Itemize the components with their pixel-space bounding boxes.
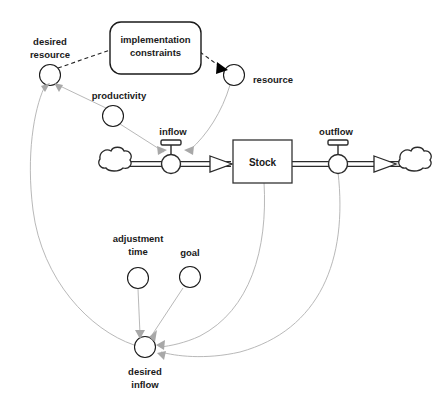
arrowhead-gray: [184, 146, 194, 155]
desired-resource-label-line1: desired: [33, 36, 67, 47]
desired-inflow-label-line1: desired: [128, 366, 162, 377]
stock-node[interactable]: Stock: [233, 140, 292, 183]
link-outflow-to-desired-inflow[interactable]: [161, 172, 340, 357]
cloud-icon: [99, 147, 131, 171]
aux-circle: [40, 65, 61, 86]
desired-resource-node[interactable]: desired resource: [30, 36, 70, 86]
sink-cloud[interactable]: [399, 147, 431, 171]
constraints-label-line2: constraints: [130, 47, 181, 58]
valve-body: [162, 155, 181, 174]
inflow-label: inflow: [159, 126, 187, 137]
implementation-constraints-node[interactable]: implementation constraints: [110, 22, 201, 74]
goal-node[interactable]: goal: [180, 247, 201, 288]
valve-cap: [328, 140, 348, 145]
adjustment-time-node[interactable]: adjustment time: [113, 233, 165, 289]
valve-cap: [161, 140, 181, 145]
link-desired-inflow-to-desired-resource[interactable]: [30, 88, 134, 345]
valve-body: [329, 155, 348, 174]
productivity-node[interactable]: productivity: [92, 90, 147, 127]
cloud-icon: [399, 147, 431, 171]
arrowhead-gray: [157, 351, 166, 360]
aux-circle: [103, 106, 124, 127]
inflow-direction-arrow: [210, 156, 232, 172]
system-dynamics-diagram: Stock inflow outflow implementation cons…: [0, 0, 444, 399]
desired-resource-label-line2: resource: [30, 49, 70, 60]
outflow-direction-arrow: [374, 156, 396, 172]
adjustment-time-label-line1: adjustment: [113, 233, 165, 244]
resource-node[interactable]: resource: [224, 65, 294, 86]
source-cloud[interactable]: [99, 147, 131, 171]
arrowhead-gray: [156, 340, 165, 350]
goal-label: goal: [180, 247, 200, 258]
link-adjustment-time-to-desired-inflow[interactable]: [138, 289, 140, 334]
stock-label: Stock: [249, 157, 277, 168]
arrowhead-gray: [157, 146, 167, 155]
arrowheads-layer: [41, 62, 228, 360]
aux-circle: [128, 268, 149, 289]
link-stock-to-desired-inflow[interactable]: [160, 182, 265, 347]
constraints-label-line1: implementation: [120, 34, 190, 45]
resource-label: resource: [253, 74, 293, 85]
desired-inflow-label-line2: inflow: [131, 379, 159, 390]
link-goal-to-desired-inflow[interactable]: [152, 288, 183, 335]
adjustment-time-label-line2: time: [128, 246, 148, 257]
productivity-label: productivity: [92, 90, 147, 101]
outflow-label: outflow: [319, 126, 353, 137]
aux-circle: [180, 267, 201, 288]
arrowhead-gray: [54, 83, 63, 92]
aux-circle: [224, 65, 245, 86]
diagram-canvas: Stock inflow outflow implementation cons…: [0, 0, 444, 399]
link-resource-to-inflow[interactable]: [190, 85, 230, 150]
